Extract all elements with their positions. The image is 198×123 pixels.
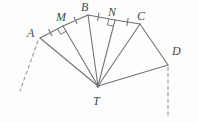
tick-segment-N-C [127, 18, 128, 25]
geometry-figure: AMBNCDT [0, 0, 198, 123]
segment-M-T [63, 26, 98, 86]
segment-N-T [98, 20, 115, 86]
vertex-label-D: D [172, 45, 181, 57]
vertex-label-N: N [108, 6, 116, 18]
segment-A-T [40, 38, 98, 86]
segment-C-T [98, 24, 140, 86]
solid-segments-group [40, 15, 168, 86]
apex-point-T [96, 84, 99, 87]
segment-B-T [88, 15, 98, 86]
vertex-label-A: A [27, 27, 34, 39]
segment-T-D [98, 65, 168, 86]
tick-segment-A-M [49, 29, 52, 35]
tick-segment-B-N [98, 13, 99, 20]
segment-C-D [140, 24, 168, 65]
vertex-label-T: T [93, 95, 100, 107]
vertex-label-C: C [137, 10, 145, 22]
dashed-ray-at-A [20, 41, 38, 91]
apex-point-group [96, 84, 99, 87]
vertex-label-B: B [81, 1, 88, 13]
vertex-label-M: M [56, 11, 66, 23]
